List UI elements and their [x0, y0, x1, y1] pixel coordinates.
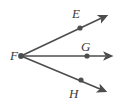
point-h-dot [78, 77, 83, 82]
point-label-f: F [10, 49, 18, 62]
geometry-figure: E F G H [0, 0, 115, 108]
point-label-e: E [72, 7, 80, 20]
point-f-dot [18, 53, 24, 59]
point-label-h: H [69, 87, 78, 100]
point-g-dot [84, 53, 89, 58]
point-e-dot [77, 25, 82, 30]
point-label-g: G [81, 40, 90, 53]
ray-fh [21, 56, 99, 89]
